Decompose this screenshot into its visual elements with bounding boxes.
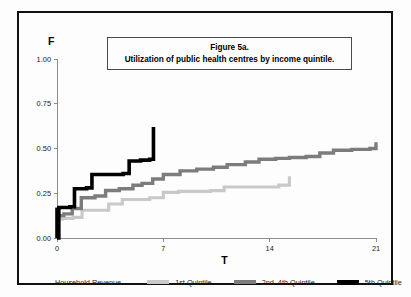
legend-label-1st-quintile: 1st Quintile — [175, 278, 212, 287]
x-axis-title: T — [221, 254, 228, 266]
legend-item-1st-quintile: 1st Quintile — [147, 278, 212, 287]
legend-swatch-1st-quintile — [147, 280, 169, 284]
y-tick-label: 0.50 — [37, 144, 51, 153]
y-tick-label: 1.00 — [37, 55, 51, 64]
series-line-2nd-4th-quintile — [57, 142, 376, 215]
legend-label-2nd-4th-quintile: 2nd–4th Quintile — [262, 278, 315, 287]
figure-container: 0.000.250.500.751.00071421FT Figure 5a. … — [0, 0, 411, 297]
chart-legend: Household Revenue 1st Quintile 2nd–4th Q… — [55, 274, 395, 290]
y-axis-title: F — [48, 35, 55, 47]
chart-title-line-1: Figure 5a. — [210, 42, 249, 53]
chart-title-line-2: Utilization of public health centres by … — [125, 54, 335, 65]
legend-swatch-5th-quintile — [337, 280, 359, 285]
series-line-5th-quintile — [57, 127, 153, 238]
figure-frame: 0.000.250.500.751.00071421FT Figure 5a. … — [17, 11, 393, 285]
legend-label-5th-quintile: 5th Quintile — [365, 278, 402, 287]
y-tick-label: 0.25 — [37, 189, 51, 198]
legend-swatch-2nd-4th-quintile — [234, 280, 256, 284]
chart-title-box: Figure 5a. Utilization of public health … — [107, 37, 352, 70]
y-tick-label: 0.75 — [37, 99, 51, 108]
x-tick-label: 0 — [55, 244, 59, 253]
y-tick-label: 0.00 — [37, 234, 51, 243]
x-tick-label: 21 — [372, 244, 380, 253]
x-tick-label: 7 — [161, 244, 165, 253]
legend-item-2nd-4th-quintile: 2nd–4th Quintile — [234, 278, 315, 287]
x-tick-label: 14 — [266, 244, 274, 253]
legend-item-5th-quintile: 5th Quintile — [337, 278, 402, 287]
legend-heading: Household Revenue — [55, 278, 121, 287]
